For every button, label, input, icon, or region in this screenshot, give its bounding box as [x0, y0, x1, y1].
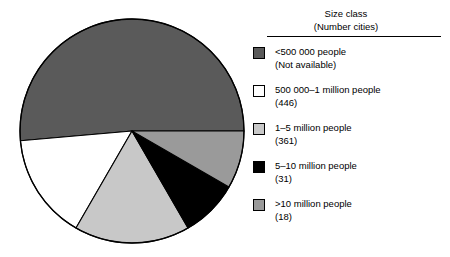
legend-divider	[267, 36, 441, 37]
legend-swatch-wrap	[253, 46, 275, 59]
legend-color-swatch	[253, 199, 265, 211]
legend-swatch-wrap	[253, 160, 275, 173]
legend-text: 5–10 million people(31)	[275, 160, 357, 185]
legend-item-count: (18)	[275, 211, 352, 224]
legend-color-swatch	[253, 85, 265, 97]
chart-legend: Size class (Number cities) <500 000 peop…	[253, 8, 445, 236]
legend-text: 1–5 million people(361)	[275, 122, 352, 147]
legend-color-swatch	[253, 161, 265, 173]
legend-color-swatch	[253, 123, 265, 135]
legend-text: 500 000–1 million people(446)	[275, 84, 381, 109]
pie-slices	[20, 19, 244, 243]
legend-item-count: (446)	[275, 97, 381, 110]
legend-text: >10 million people(18)	[275, 198, 352, 223]
pie-slice[interactable]	[20, 19, 244, 141]
legend-header: Size class (Number cities)	[253, 8, 445, 33]
legend-item[interactable]: 5–10 million people(31)	[253, 160, 445, 198]
legend-item[interactable]: 1–5 million people(361)	[253, 122, 445, 160]
legend-item-label: 5–10 million people	[275, 160, 357, 173]
legend-item-label: 500 000–1 million people	[275, 84, 381, 97]
legend-swatch-wrap	[253, 198, 275, 211]
legend-text: <500 000 people(Not available)	[275, 46, 346, 71]
legend-item[interactable]: <500 000 people(Not available)	[253, 46, 445, 84]
legend-item-label: >10 million people	[275, 198, 352, 211]
legend-items: <500 000 people(Not available)500 000–1 …	[253, 46, 445, 236]
legend-item-count: (Not available)	[275, 59, 346, 72]
legend-item-count: (31)	[275, 173, 357, 186]
legend-header-line2: (Number cities)	[253, 21, 439, 34]
pie-chart	[18, 17, 246, 245]
legend-item-label: <500 000 people	[275, 46, 346, 59]
pie-chart-figure: Size class (Number cities) <500 000 peop…	[0, 0, 450, 257]
legend-item[interactable]: >10 million people(18)	[253, 198, 445, 236]
legend-item-label: 1–5 million people	[275, 122, 352, 135]
legend-item-count: (361)	[275, 135, 352, 148]
legend-color-swatch	[253, 47, 265, 59]
legend-header-line1: Size class	[253, 8, 439, 21]
legend-swatch-wrap	[253, 84, 275, 97]
legend-item[interactable]: 500 000–1 million people(446)	[253, 84, 445, 122]
pie-svg	[18, 17, 246, 245]
legend-swatch-wrap	[253, 122, 275, 135]
